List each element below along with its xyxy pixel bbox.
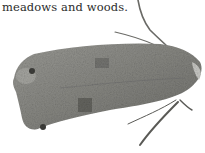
moth-photo: [0, 0, 205, 153]
legs: [128, 100, 192, 145]
moth-wings: [13, 43, 202, 130]
